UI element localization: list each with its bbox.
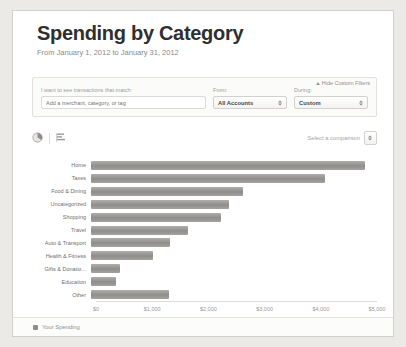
- chart-bar[interactable]: [91, 187, 243, 196]
- chart-bar-track: [91, 290, 377, 299]
- chart-bar-row: Gifts & Donatio...: [32, 264, 377, 273]
- comparison-dropdown-button[interactable]: [364, 131, 377, 145]
- account-select[interactable]: All Accounts: [213, 96, 287, 109]
- from-field-label: From:: [213, 87, 287, 93]
- chart-bar[interactable]: [91, 251, 153, 260]
- report-header: Spending by Category From January 1, 201…: [13, 11, 393, 57]
- chart-bar-track: [91, 238, 377, 247]
- chart-bar-track: [91, 187, 377, 196]
- chart-bar[interactable]: [91, 161, 365, 170]
- stepper-icon: [368, 136, 372, 141]
- chart-x-tick-label: $0: [93, 306, 99, 312]
- page-title: Spending by Category: [37, 23, 393, 44]
- chart-category-label: Auto & Transport: [32, 240, 91, 246]
- chart-bar-track: [91, 200, 377, 209]
- date-range-select-value: Custom: [299, 100, 321, 106]
- chart-bar-row: Taxes: [32, 174, 377, 183]
- chart-bar[interactable]: [91, 200, 229, 209]
- chart-category-label: Food & Dining: [32, 188, 91, 194]
- during-field-group: During: Custom: [294, 87, 368, 109]
- chart-bar-track: [91, 213, 377, 222]
- comparison-label: Select a comparison: [307, 135, 360, 141]
- chart-category-label: Gifts & Donatio...: [32, 266, 91, 272]
- chart-bar-track: [91, 226, 377, 235]
- chart-category-label: Taxes: [32, 175, 91, 181]
- hide-custom-filters-label: Hide Custom Filters: [322, 80, 370, 86]
- chart-plot-area: HomeTaxesFood & DiningUncategorizedShopp…: [32, 159, 377, 301]
- toolbar-divider: [49, 133, 50, 144]
- chart-x-tick-label: $3,000: [256, 306, 273, 312]
- chart-bar-row: Auto & Transport: [32, 238, 377, 247]
- chart-bar-track: [91, 161, 377, 170]
- chart-bar-row: Travel: [32, 226, 377, 235]
- chart-bar-track: [91, 264, 377, 273]
- chart-bar-row: Uncategorized: [32, 200, 377, 209]
- chart-bar[interactable]: [91, 226, 188, 235]
- chart-x-tick-label: $5,000: [369, 306, 386, 312]
- legend-label: Your Spending: [42, 324, 80, 330]
- chart-bar[interactable]: [91, 238, 170, 247]
- chart-x-axis: $0$1,000$2,000$3,000$4,000$5,000: [96, 301, 377, 318]
- chart-bar[interactable]: [91, 290, 169, 299]
- chart-bar-row: Education: [32, 277, 377, 286]
- stepper-icon: [359, 100, 363, 105]
- chart-category-label: Other: [32, 292, 91, 298]
- caret-up-icon: [316, 82, 320, 85]
- chart-bar-track: [91, 174, 377, 183]
- pie-chart-icon[interactable]: [32, 129, 43, 147]
- transaction-search-input[interactable]: [41, 96, 206, 109]
- chart-category-label: Uncategorized: [32, 201, 91, 207]
- chart-bar-row: Food & Dining: [32, 187, 377, 196]
- chart-x-tick-label: $2,000: [200, 306, 217, 312]
- chart-bar-row: Health & Fitness: [32, 251, 377, 260]
- chart-bar-track: [91, 277, 377, 286]
- stepper-icon: [278, 100, 282, 105]
- chart-bar[interactable]: [91, 174, 325, 183]
- during-field-label: During:: [294, 87, 368, 93]
- chart-bar-track: [91, 251, 377, 260]
- chart-category-label: Travel: [32, 227, 91, 233]
- chart-bar-row: Home: [32, 161, 377, 170]
- date-range-subtitle: From January 1, 2012 to January 31, 2012: [37, 48, 393, 57]
- chart-type-toggles: [32, 129, 67, 147]
- chart-legend: Your Spending: [13, 317, 393, 336]
- from-field-group: From: All Accounts: [213, 87, 287, 109]
- chart-toolbar: Select a comparison: [32, 127, 377, 149]
- custom-filters-panel: Hide Custom Filters I want to see transa…: [32, 77, 377, 117]
- hide-custom-filters-link[interactable]: Hide Custom Filters: [316, 80, 370, 86]
- match-field-label: I want to see transactions that match:: [41, 87, 206, 93]
- chart-bar-row: Other: [32, 290, 377, 299]
- filter-row: I want to see transactions that match: F…: [41, 87, 368, 109]
- spending-bar-chart: HomeTaxesFood & DiningUncategorizedShopp…: [32, 159, 377, 319]
- chart-x-tick-label: $1,000: [144, 306, 161, 312]
- comparison-control[interactable]: Select a comparison: [307, 131, 377, 145]
- chart-category-label: Health & Fitness: [32, 253, 91, 259]
- report-card: Spending by Category From January 1, 201…: [12, 10, 394, 337]
- chart-bar[interactable]: [91, 264, 120, 273]
- chart-category-label: Education: [32, 279, 91, 285]
- legend-swatch: [33, 325, 38, 330]
- account-select-value: All Accounts: [218, 100, 253, 106]
- chart-bar[interactable]: [91, 213, 221, 222]
- bar-chart-icon[interactable]: [56, 129, 67, 147]
- chart-x-tick-label: $4,000: [312, 306, 329, 312]
- chart-bar-row: Shopping: [32, 213, 377, 222]
- date-range-select[interactable]: Custom: [294, 96, 368, 109]
- chart-category-label: Shopping: [32, 214, 91, 220]
- chart-bar[interactable]: [91, 277, 116, 286]
- match-field-group: I want to see transactions that match:: [41, 87, 206, 109]
- chart-category-label: Home: [32, 162, 91, 168]
